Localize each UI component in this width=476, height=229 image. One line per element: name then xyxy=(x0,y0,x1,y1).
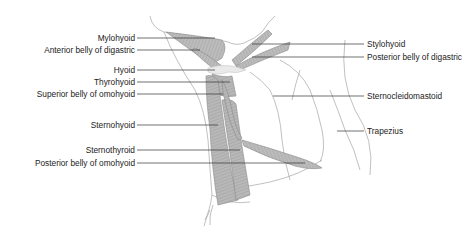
posterior-omohyoid-muscle xyxy=(242,140,322,169)
label-hyoid: Hyoid xyxy=(114,65,135,75)
label-thyrohyoid: Thyrohyoid xyxy=(94,77,135,87)
label-superior-belly-omohyoid: Superior belly of omohyoid xyxy=(37,89,135,99)
neck-outline xyxy=(150,16,371,226)
label-mylohyoid: Mylohyoid xyxy=(98,33,135,43)
mylohyoid-muscle xyxy=(166,32,225,63)
label-trapezius: Trapezius xyxy=(367,126,403,136)
label-posterior-belly-digastric: Posterior belly of digastric xyxy=(367,52,462,62)
neck-muscle-diagram: Mylohyoid Anterior belly of digastric Hy… xyxy=(0,0,476,229)
label-anterior-belly-digastric: Anterior belly of digastric xyxy=(44,45,135,55)
label-stylohyoid: Stylohyoid xyxy=(367,39,405,49)
label-sternothyroid: Sternothyroid xyxy=(86,145,135,155)
muscles xyxy=(166,30,322,205)
label-sternocleidomastoid: Sternocleidomastoid xyxy=(367,91,442,101)
label-posterior-belly-omohyoid: Posterior belly of omohyoid xyxy=(35,158,135,168)
label-sternohyoid: Sternohyoid xyxy=(91,120,135,130)
anatomy-illustration xyxy=(0,0,476,229)
